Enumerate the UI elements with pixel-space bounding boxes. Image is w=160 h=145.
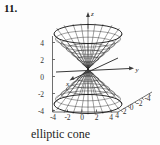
figure-caption: elliptic cone (31, 127, 90, 142)
x-tick-label: -4 (50, 113, 56, 122)
z-tick-label: -4 (38, 107, 44, 116)
z-scale-axis-group: 4 2 0 -2 -4 (38, 36, 55, 116)
x-axis-arrowhead (70, 76, 75, 81)
figure-container: 11. z 4 2 0 -2 -4 (0, 0, 160, 145)
x-tick-label: 0 (80, 113, 84, 122)
y-axis-label: y (135, 66, 140, 74)
lower-nappe-radial-lines (54, 69, 122, 114)
elliptic-cone-plot: z 4 2 0 -2 -4 -4 -2 0 2 (0, 6, 160, 128)
y-axis-arrowhead (129, 66, 134, 70)
z-tick-label: 2 (40, 56, 44, 65)
upper-nappe-radial-lines (54, 24, 122, 69)
x-tick-label: 2 (95, 113, 99, 122)
y-depth-tick-label: -2 (136, 99, 142, 108)
y-depth-tick-label: 4 (115, 111, 119, 120)
y-axis-line (56, 69, 130, 73)
x-tick-label: -2 (64, 113, 70, 122)
y-depth-tick-label: -4 (144, 94, 150, 103)
y-depth-tick-label: 0 (130, 103, 134, 112)
z-axis-arrowhead (86, 12, 90, 17)
z-tick-label: 4 (40, 39, 44, 48)
x-axis-label: x (65, 80, 70, 88)
z-tick-label: 0 (40, 73, 44, 82)
z-tick-label: -2 (38, 90, 44, 99)
lower-nappe-surface (54, 69, 122, 114)
x-tick-label: 4 (109, 113, 113, 122)
y-depth-tick-label: 2 (123, 107, 127, 116)
z-axis-label: z (90, 10, 94, 18)
y-depth-axis-group: 4 2 0 -2 -4 (115, 92, 152, 120)
upper-nappe-surface (54, 24, 122, 69)
